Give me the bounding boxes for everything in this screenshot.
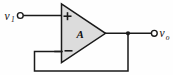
input-voltage-subscript: 1 bbox=[11, 15, 15, 24]
output-terminal-circle bbox=[151, 30, 157, 36]
input-terminal-circle bbox=[17, 13, 23, 19]
amplifier-gain-label: A bbox=[76, 28, 84, 40]
input-voltage-label: v bbox=[5, 10, 11, 22]
output-voltage-label: v bbox=[160, 27, 166, 39]
circuit-schematic-canvas: A v 1 v o bbox=[0, 0, 173, 75]
output-junction-dot bbox=[126, 31, 130, 35]
op-amp-voltage-follower-figure: A v 1 v o bbox=[0, 0, 173, 75]
output-voltage-subscript: o bbox=[166, 33, 170, 42]
